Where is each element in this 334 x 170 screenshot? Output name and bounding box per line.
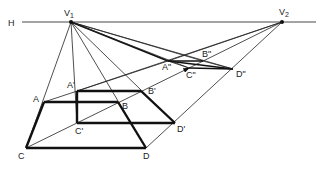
v2-point	[280, 20, 284, 24]
label-c2: C"	[186, 70, 196, 80]
label-c1: C'	[75, 126, 83, 136]
label-b: B	[122, 101, 128, 111]
label-a2: A"	[162, 62, 171, 72]
label-v1: V1	[64, 8, 74, 19]
v1-point	[69, 20, 73, 24]
label-a: A	[33, 94, 39, 104]
label-a1: A'	[67, 80, 75, 90]
perspective-diagram: H V1 V2 A B C D A' B' C' D' A" B" C" D"	[0, 0, 334, 170]
label-h: H	[8, 18, 15, 28]
label-d2: D"	[236, 69, 246, 79]
label-d1: D'	[177, 124, 185, 134]
line-v2-d	[146, 22, 282, 148]
label-b1: B'	[148, 86, 156, 96]
diagram-canvas: H V1 V2 A B C D A' B' C' D' A" B" C" D"	[0, 0, 334, 170]
label-c: C	[18, 151, 25, 161]
v1-projection-lines	[26, 22, 233, 148]
label-v2: V2	[279, 7, 289, 18]
label-b2: B"	[202, 49, 211, 59]
label-d: D	[143, 151, 150, 161]
